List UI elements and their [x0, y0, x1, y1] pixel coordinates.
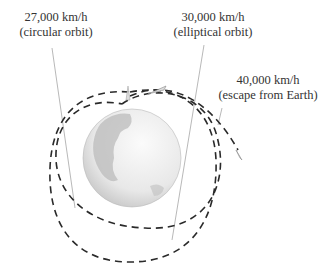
escape-speed: 40,000 km/h [208, 73, 328, 88]
escape-label: 40,000 km/h (escape from Earth) [208, 73, 328, 103]
circular-speed: 27,000 km/h [6, 10, 106, 25]
circular-desc: (circular orbit) [6, 25, 106, 40]
leader-line-circular [52, 48, 75, 208]
elliptical-orbit-label: 30,000 km/h (elliptical orbit) [158, 10, 268, 40]
rocket-icon [126, 86, 130, 100]
diagram-graphics [0, 0, 329, 275]
orbit-diagram: 27,000 km/h (circular orbit) 30,000 km/h… [0, 0, 329, 275]
elliptical-desc: (elliptical orbit) [158, 25, 268, 40]
escape-desc: (escape from Earth) [208, 88, 328, 103]
earth-icon [83, 109, 181, 207]
elliptical-speed: 30,000 km/h [158, 10, 268, 25]
circular-orbit-label: 27,000 km/h (circular orbit) [6, 10, 106, 40]
